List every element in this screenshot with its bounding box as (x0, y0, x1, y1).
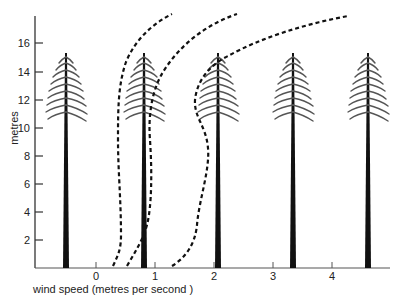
x-axis: 0 1 2 3 4 wind speed (metres per second … (32, 262, 390, 295)
x-axis-title: wind speed (metres per second ) (32, 283, 193, 295)
y-tick-14: 14 (18, 66, 30, 78)
wind-profile-curve-3 (172, 16, 348, 266)
y-tick-4: 4 (24, 206, 30, 218)
y-tick-8: 8 (24, 150, 30, 162)
tree-3 (198, 53, 239, 268)
y-axis-title: metres (8, 111, 20, 145)
x-tick-0: 0 (93, 270, 99, 282)
x-tick-3: 3 (270, 270, 276, 282)
x-tick-2: 2 (211, 270, 217, 282)
x-tick-4: 4 (329, 270, 335, 282)
x-tick-1: 1 (152, 270, 158, 282)
y-tick-2: 2 (24, 234, 30, 246)
wind-profile-chart: 16 14 12 10 8 6 4 2 metres 0 1 2 3 4 win… (0, 0, 398, 304)
y-tick-16: 16 (18, 37, 30, 49)
tree-4 (273, 53, 314, 268)
y-tick-6: 6 (24, 178, 30, 190)
y-tick-12: 12 (18, 94, 30, 106)
tree-5 (348, 53, 389, 268)
y-axis: 16 14 12 10 8 6 4 2 metres (8, 16, 43, 268)
tree-1 (46, 53, 87, 268)
tree-2 (124, 53, 165, 268)
